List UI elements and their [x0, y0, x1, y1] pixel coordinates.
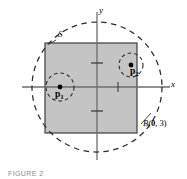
ball-label: B(0, 3) — [143, 119, 167, 128]
point-label-p2: p2 — [130, 67, 139, 78]
figure-container: y x S p1 p2 B(0, 3) FIGURE 2 — [0, 0, 187, 179]
y-axis-label: y — [99, 6, 103, 15]
ball-label-suffix: ) — [164, 118, 167, 128]
ball-label-prefix: B( — [143, 118, 151, 128]
point-label-p1: p1 — [55, 90, 64, 101]
figure-graphic — [0, 0, 187, 179]
point-label-p2-subscript: 2 — [135, 70, 139, 78]
point-label-p1-subscript: 1 — [60, 93, 64, 101]
set-label-s: S — [58, 30, 63, 39]
figure-caption: FIGURE 2 — [8, 170, 43, 177]
x-axis-label: x — [171, 80, 175, 89]
